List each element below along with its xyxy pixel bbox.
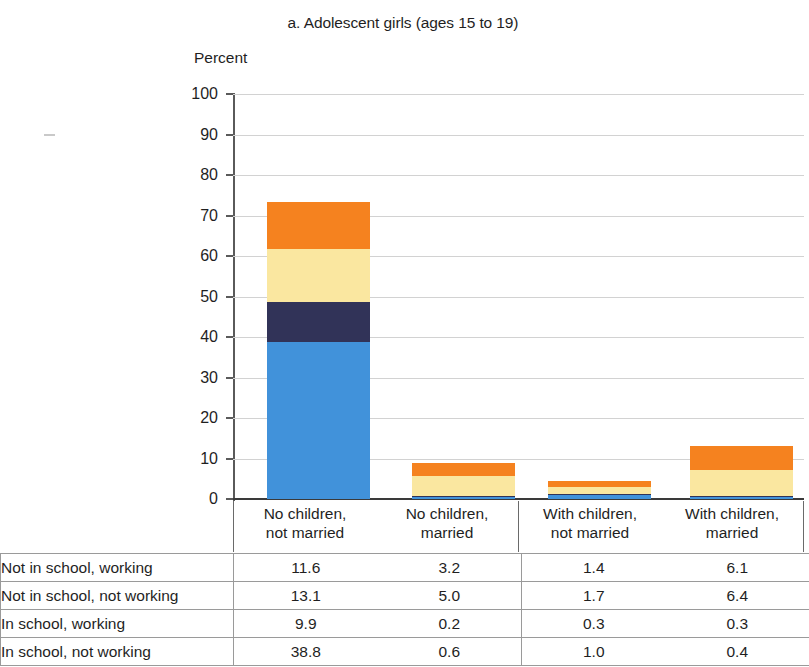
table-cell-value: 1.4 bbox=[522, 554, 666, 582]
y-tick-10 bbox=[226, 458, 233, 460]
bar-segment[interactable] bbox=[412, 497, 515, 499]
category-label-line: No children, bbox=[234, 505, 376, 524]
category-label-line: not married bbox=[234, 524, 376, 543]
plot-area: 0102030405060708090100 bbox=[233, 94, 804, 499]
bar-segment[interactable] bbox=[548, 495, 651, 499]
y-tick-label-70: 70 bbox=[178, 208, 218, 224]
table-cell-value: 3.2 bbox=[378, 554, 522, 582]
table-cell-value: 0.4 bbox=[666, 638, 809, 666]
y-axis-title: Percent bbox=[194, 49, 247, 67]
bar-segment[interactable] bbox=[412, 463, 515, 476]
y-tick-50 bbox=[226, 296, 233, 298]
category-label-line: No children, bbox=[376, 505, 518, 524]
stacked-bar[interactable] bbox=[548, 481, 651, 499]
y-tick-90 bbox=[226, 134, 233, 136]
table-cell-value: 5.0 bbox=[378, 582, 522, 610]
y-tick-label-30: 30 bbox=[178, 370, 218, 386]
bar-segment[interactable] bbox=[412, 476, 515, 496]
gridline-90 bbox=[233, 135, 804, 136]
category-label-line: With children, bbox=[661, 505, 803, 524]
y-tick-20 bbox=[226, 417, 233, 419]
category-label-line: With children, bbox=[519, 505, 661, 524]
category-label-line: married bbox=[661, 524, 803, 543]
category-label-line: married bbox=[376, 524, 518, 543]
y-tick-label-40: 40 bbox=[178, 329, 218, 345]
table-row: In school, not working38.80.61.00.4 bbox=[1, 638, 809, 666]
table-cell-value: 11.6 bbox=[234, 554, 378, 582]
table-row-label: In school, working bbox=[1, 610, 234, 638]
y-tick-label-100: 100 bbox=[178, 86, 218, 102]
y-tick-40 bbox=[226, 336, 233, 338]
category-label-strip: No children,not marriedNo children,marri… bbox=[233, 501, 804, 552]
bar-segment[interactable] bbox=[267, 202, 370, 249]
table-cell-value: 0.6 bbox=[378, 638, 522, 666]
table-row-label: Not in school, not working bbox=[1, 582, 234, 610]
table-cell-value: 13.1 bbox=[234, 582, 378, 610]
y-tick-label-0: 0 bbox=[178, 491, 218, 507]
bar-segment[interactable] bbox=[267, 302, 370, 342]
category-label-4: With children,married bbox=[661, 501, 803, 552]
stacked-bar[interactable] bbox=[267, 202, 370, 499]
stacked-bar[interactable] bbox=[412, 463, 515, 499]
y-tick-label-10: 10 bbox=[178, 451, 218, 467]
gridline-80 bbox=[233, 175, 804, 176]
table-cell-value: 1.7 bbox=[522, 582, 666, 610]
chart-title: a. Adolescent girls (ages 15 to 19) bbox=[0, 14, 806, 32]
y-tick-label-90: 90 bbox=[178, 127, 218, 143]
category-label-2: No children,married bbox=[376, 501, 518, 552]
y-tick-80 bbox=[226, 174, 233, 176]
stacked-bar[interactable] bbox=[690, 446, 793, 499]
table-row: Not in school, working11.63.21.46.1 bbox=[1, 554, 809, 582]
scan-artifact bbox=[44, 134, 55, 136]
bar-segment[interactable] bbox=[548, 487, 651, 494]
y-tick-100 bbox=[226, 93, 233, 95]
data-table: Not in school, working11.63.21.46.1Not i… bbox=[0, 553, 809, 666]
table-cell-value: 6.1 bbox=[666, 554, 809, 582]
y-tick-60 bbox=[226, 255, 233, 257]
table-cell-value: 9.9 bbox=[234, 610, 378, 638]
bar-segment[interactable] bbox=[548, 481, 651, 487]
table-cell-value: 0.3 bbox=[666, 610, 809, 638]
table-cell-value: 6.4 bbox=[666, 582, 809, 610]
category-label-3: With children,not married bbox=[518, 501, 661, 552]
y-tick-label-60: 60 bbox=[178, 248, 218, 264]
bar-segment[interactable] bbox=[690, 496, 793, 497]
table-cell-value: 0.3 bbox=[522, 610, 666, 638]
bar-segment[interactable] bbox=[690, 497, 793, 499]
gridline-100 bbox=[233, 94, 804, 95]
y-tick-label-80: 80 bbox=[178, 167, 218, 183]
table-row: Not in school, not working13.15.01.76.4 bbox=[1, 582, 809, 610]
category-label-line: not married bbox=[519, 524, 661, 543]
bar-segment[interactable] bbox=[267, 342, 370, 499]
table-cell-value: 38.8 bbox=[234, 638, 378, 666]
bar-segment[interactable] bbox=[690, 446, 793, 471]
y-tick-0 bbox=[226, 498, 233, 500]
bar-segment[interactable] bbox=[548, 494, 651, 495]
y-tick-label-50: 50 bbox=[178, 289, 218, 305]
y-tick-70 bbox=[226, 215, 233, 217]
table-row-label: In school, not working bbox=[1, 638, 234, 666]
category-label-1: No children,not married bbox=[234, 501, 376, 552]
table-row-label: Not in school, working bbox=[1, 554, 234, 582]
y-tick-30 bbox=[226, 377, 233, 379]
table-cell-value: 0.2 bbox=[378, 610, 522, 638]
table-row: In school, working9.90.20.30.3 bbox=[1, 610, 809, 638]
table-cell-value: 1.0 bbox=[522, 638, 666, 666]
bar-segment[interactable] bbox=[267, 249, 370, 302]
bar-segment[interactable] bbox=[690, 470, 793, 496]
y-tick-label-20: 20 bbox=[178, 410, 218, 426]
